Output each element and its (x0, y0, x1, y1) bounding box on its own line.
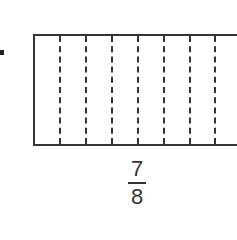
bullet-marker (0, 50, 4, 55)
dashed-divider-5 (163, 36, 165, 144)
dashed-divider-6 (189, 36, 191, 144)
fraction-bar-rectangle (33, 34, 237, 146)
dashed-divider-1 (59, 36, 61, 144)
dashed-divider-7 (214, 36, 216, 144)
fraction-denominator: 8 (126, 185, 148, 209)
fraction-label: 7 8 (126, 157, 148, 209)
dashed-divider-4 (137, 36, 139, 144)
dashed-divider-2 (85, 36, 87, 144)
dashed-divider-3 (111, 36, 113, 144)
fraction-numerator: 7 (126, 157, 148, 181)
